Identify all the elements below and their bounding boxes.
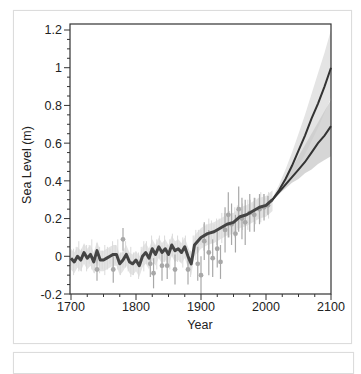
data-point-marker [236, 207, 241, 212]
data-point-marker [148, 261, 153, 266]
y-axis-title: Sea Level (m) [20, 126, 34, 204]
x-tick-label: 2100 [317, 300, 345, 314]
data-point-marker [173, 267, 178, 272]
x-tick-label: 1900 [187, 300, 215, 314]
y-tick-label: 1 [55, 61, 62, 75]
x-tick-label: 2000 [252, 300, 280, 314]
data-point-marker [121, 237, 126, 242]
data-point-marker [186, 267, 191, 272]
x-tick-label: 1700 [57, 300, 85, 314]
y-tick-label: 0.6 [45, 137, 62, 151]
data-point-marker [226, 212, 231, 217]
data-point-marker [233, 231, 238, 236]
data-point-marker [243, 220, 248, 225]
y-tick-label: 0.2 [45, 212, 62, 226]
data-point-marker [160, 263, 165, 268]
x-tick-label: 1800 [122, 300, 150, 314]
data-point-marker [202, 239, 207, 244]
y-tick-label: 0 [55, 250, 62, 264]
data-point-marker [151, 271, 156, 276]
data-point-marker [95, 267, 100, 272]
data-point-marker [199, 273, 204, 278]
data-point-marker [215, 246, 220, 251]
y-axis-ticks [64, 30, 70, 294]
data-point-marker [210, 256, 215, 261]
data-point-marker [195, 261, 200, 266]
x-axis-title: Year [187, 318, 212, 332]
data-point-marker [206, 250, 211, 255]
y-tick-label: 0.4 [45, 175, 62, 189]
data-point-marker [218, 260, 223, 265]
y-tick-label: 0.8 [45, 99, 62, 113]
data-point-marker [111, 267, 116, 272]
data-point-marker [252, 212, 257, 217]
data-point-marker [223, 227, 228, 232]
data-point-marker [165, 263, 170, 268]
series-lines [71, 68, 331, 266]
y-tick-label: 1.2 [45, 23, 62, 37]
